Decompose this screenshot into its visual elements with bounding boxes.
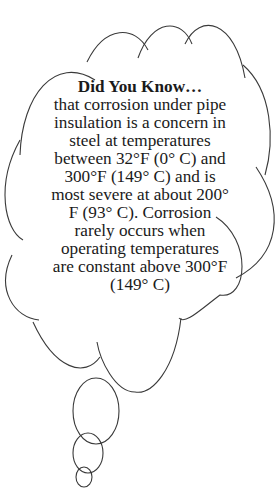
callout-line: rarely occurs when (40, 222, 240, 240)
callout-line: operating temperatures (40, 240, 240, 258)
callout-line: are constant above 300°F (40, 258, 240, 276)
callout-line: 300°F (149° C) and is (40, 168, 240, 186)
callout-line: F (93° C). Corrosion (40, 204, 240, 222)
did-you-know-callout: Did You Know… that corrosion under pipe … (40, 78, 240, 294)
callout-line: most severe at about 200° (40, 186, 240, 204)
callout-line: that corrosion under pipe (40, 96, 240, 114)
callout-line: insulation is a concern in (40, 114, 240, 132)
callout-title: Did You Know… (40, 78, 240, 96)
callout-line: (149° C) (40, 276, 240, 294)
callout-line: steel at temperatures (40, 132, 240, 150)
callout-line: between 32°F (0° C) and (40, 150, 240, 168)
